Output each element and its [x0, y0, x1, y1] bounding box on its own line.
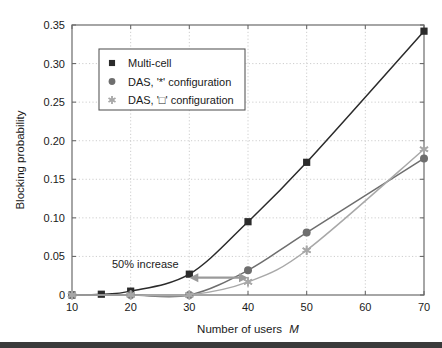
- x-axis-title: Number of users M: [197, 323, 299, 335]
- data-point-s0-x50: [303, 159, 310, 166]
- legend-marker-circle: [109, 78, 116, 85]
- data-point-s0-x15: [98, 291, 105, 298]
- x-tick-label-10: 10: [66, 301, 78, 313]
- data-point-s0-x40: [244, 218, 251, 225]
- y-tick-label-0.05: 0.05: [44, 250, 65, 262]
- y-tick-label-0.25: 0.25: [44, 96, 65, 108]
- chart-legend[interactable]: Multi-cellDAS, '*' configurationDAS, '□'…: [99, 49, 245, 110]
- page-edge-bar: [0, 342, 442, 348]
- data-point-s1-x50: [303, 229, 311, 237]
- legend-label-1: DAS, '*' configuration: [128, 76, 231, 88]
- data-point-s0-x70: [420, 28, 427, 35]
- x-tick-label-60: 60: [359, 301, 371, 313]
- annotation-50-percent-increase: 50% increase: [112, 258, 179, 270]
- y-tick-label-0.20: 0.20: [44, 135, 65, 147]
- x-axis-title-italic-M: M: [289, 323, 299, 335]
- y-tick-label-0.35: 0.35: [44, 19, 65, 31]
- x-axis-title-plain: Number of users: [197, 323, 282, 335]
- legend-item-2[interactable]: DAS, '□' configuration: [109, 94, 234, 106]
- data-point-s1-x40: [244, 266, 252, 274]
- x-tick-label-50: 50: [301, 301, 313, 313]
- y-tick-label-0: 0: [59, 289, 65, 301]
- y-axis-title: Blocking probability: [14, 110, 26, 209]
- y-tick-label-0.15: 0.15: [44, 173, 65, 185]
- y-tick-label-0.10: 0.10: [44, 212, 65, 224]
- legend-marker-square: [109, 60, 115, 66]
- legend-label-2: DAS, '□' configuration: [128, 94, 234, 106]
- figure-container: 10203040506070 00.050.100.150.200.250.30…: [0, 0, 442, 348]
- data-point-s1-x70: [420, 154, 428, 162]
- legend-label-0: Multi-cell: [128, 57, 171, 69]
- x-tick-label-70: 70: [418, 301, 430, 313]
- x-tick-label-30: 30: [183, 301, 195, 313]
- x-tick-label-40: 40: [242, 301, 254, 313]
- x-tick-label-20: 20: [125, 301, 137, 313]
- blocking-probability-chart: 10203040506070 00.050.100.150.200.250.30…: [0, 0, 442, 348]
- y-tick-label-0.30: 0.30: [44, 58, 65, 70]
